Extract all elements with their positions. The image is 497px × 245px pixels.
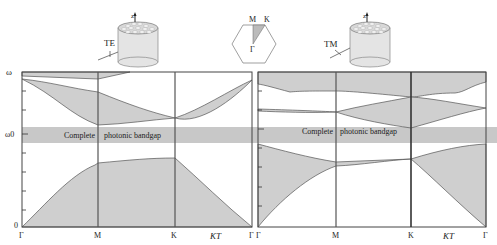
tm-tick-gamma-end: Γ	[483, 231, 488, 240]
te-z-axis-label: z	[131, 12, 134, 20]
te-tick-gamma-end: Γ	[249, 231, 254, 240]
tm-gap-label-1: Complete	[302, 127, 334, 136]
tm-tick-gamma-start: Γ	[256, 231, 261, 240]
te-band-plot	[22, 72, 252, 227]
tm-label: TM	[324, 39, 338, 49]
tm-band-plot	[258, 72, 486, 227]
tm-crystal-illustration: z TM	[324, 12, 390, 67]
zero-axis-label: 0	[14, 221, 18, 230]
omega-axis-label: ω	[6, 67, 12, 77]
te-crystal-illustration: z TE	[98, 12, 158, 67]
tm-gap-label-2: photonic bandgap	[340, 127, 397, 136]
tm-k-label: KT	[442, 231, 455, 241]
te-tick-k: K	[171, 231, 177, 240]
te-k-label: KT	[209, 231, 222, 241]
brillouin-zone-diagram: M K Γ	[232, 15, 276, 63]
bz-k-label: K	[264, 15, 270, 24]
te-gap-label-1: Complete	[64, 131, 96, 140]
te-tick-gamma-start: Γ	[19, 231, 24, 240]
bz-m-label: M	[249, 15, 256, 24]
tm-tick-m: M	[332, 231, 339, 240]
band-structure-figure: z TE M K Γ z TM	[0, 0, 497, 245]
te-tick-m: M	[94, 231, 101, 240]
omega0-axis-label: ω0	[5, 130, 14, 139]
te-gap-label-2: photonic bandgap	[104, 131, 161, 140]
te-label: TE	[104, 38, 115, 48]
tm-z-axis-label: z	[363, 12, 366, 20]
bz-gamma-label: Γ	[250, 45, 255, 54]
tm-tick-k: K	[408, 231, 414, 240]
